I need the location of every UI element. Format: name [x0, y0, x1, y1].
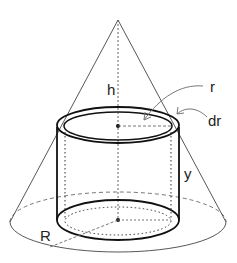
label-dr: dr [208, 112, 221, 129]
diagram-canvas: h r dr y R [0, 0, 237, 263]
label-r: r [210, 78, 215, 95]
label-R: R [40, 227, 51, 244]
bottom-radius-line [50, 220, 118, 247]
label-y: y [184, 165, 192, 182]
cone-side-left [10, 20, 118, 222]
label-h: h [107, 81, 115, 98]
